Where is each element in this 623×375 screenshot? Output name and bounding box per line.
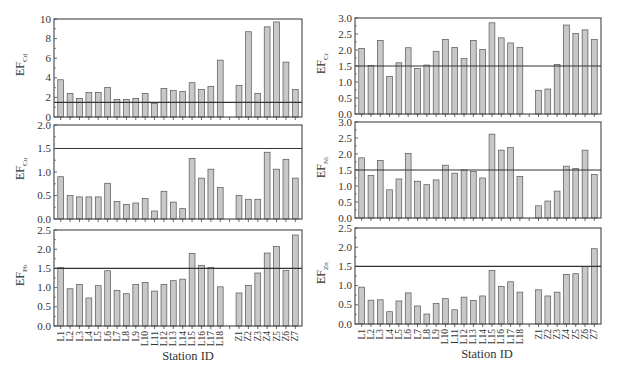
chart-panel-cu: 0.00.51.01.52.0EFCu (13, 119, 302, 225)
bar-Z6 (283, 62, 289, 117)
bar-L12 (461, 170, 467, 218)
bar-L14 (480, 296, 486, 324)
chart-panel-zn: 0.00.51.01.52.02.5L1L2L3L4L5L6L7L8L9L10L… (314, 222, 601, 345)
y-tick-label: 0.5 (338, 196, 352, 208)
bar-Z5 (274, 247, 280, 326)
bar-Z4 (564, 25, 570, 114)
bar-L11 (452, 173, 458, 218)
bar-L11 (152, 291, 158, 326)
y-axis-label: EFZn (314, 262, 330, 284)
x-tick-label: Z7 (290, 331, 300, 342)
y-axis-label: EFPb (13, 264, 29, 286)
bar-L15 (189, 158, 195, 219)
bar-L15 (489, 134, 495, 218)
bar-Z3 (554, 64, 560, 114)
x-axis-title-right: Station ID (447, 347, 527, 362)
bar-L1 (359, 48, 365, 114)
bar-L11 (152, 103, 158, 117)
y-tick-label: 1.0 (37, 166, 51, 178)
bar-L18 (517, 292, 523, 324)
bar-L3 (377, 40, 383, 114)
bar-L4 (387, 312, 393, 324)
bar-L16 (498, 38, 504, 114)
bar-L17 (508, 148, 514, 218)
bar-Z5 (274, 169, 280, 219)
bar-Z1 (536, 90, 542, 114)
x-tick-label: Z7 (589, 329, 599, 340)
y-tick-label: 1.5 (37, 142, 51, 154)
bar-L3 (377, 160, 383, 218)
bar-L5 (396, 179, 402, 218)
bar-L18 (217, 188, 223, 219)
y-tick-label: 0.5 (37, 189, 51, 201)
bar-L14 (180, 279, 186, 326)
bar-L14 (480, 49, 486, 114)
bar-L11 (452, 47, 458, 114)
bar-L13 (470, 172, 476, 218)
bar-L5 (95, 286, 101, 326)
y-tick-label: 1.5 (338, 164, 352, 176)
bar-L18 (217, 60, 223, 117)
bar-L4 (86, 197, 92, 219)
bar-L18 (517, 47, 523, 114)
y-tick-label: 2.5 (338, 132, 352, 144)
y-tick-label: 1.0 (37, 281, 51, 293)
bar-L3 (77, 197, 83, 219)
bar-L2 (67, 93, 73, 117)
bar-Z6 (283, 270, 289, 326)
bar-L4 (387, 190, 393, 218)
x-tick-label: L18 (515, 329, 525, 345)
bar-Z2 (545, 201, 551, 218)
bar-L7 (415, 181, 421, 218)
bar-L13 (170, 202, 176, 219)
chart-panel-ni: 0.00.51.01.52.02.53.0EFNi (314, 116, 601, 224)
bar-L13 (470, 40, 476, 114)
bar-L2 (67, 196, 73, 220)
y-tick-label: 2.5 (338, 28, 352, 40)
y-axis-label: EFCr (314, 52, 330, 74)
bar-Z1 (536, 206, 542, 218)
bar-L3 (377, 300, 383, 324)
y-tick-label: 0.0 (37, 320, 51, 332)
y-tick-label: 1.0 (338, 180, 352, 192)
bar-L9 (133, 285, 139, 326)
bar-Z4 (264, 152, 270, 219)
bar-L12 (161, 191, 167, 219)
bar-Z3 (554, 292, 560, 324)
bar-L13 (470, 301, 476, 324)
bar-Z2 (545, 89, 551, 114)
bar-L5 (396, 63, 402, 114)
bar-Z2 (245, 199, 251, 219)
bar-Z3 (255, 273, 261, 326)
bar-L18 (517, 176, 523, 218)
bar-L15 (489, 271, 495, 324)
bar-L4 (86, 93, 92, 118)
chart-panel-pb: 0.00.51.01.52.02.5L1L2L3L4L5L6L7L8L9L10L… (13, 224, 302, 347)
bar-L4 (86, 298, 92, 326)
bar-L6 (105, 271, 111, 326)
bar-L17 (208, 169, 214, 219)
bar-Z6 (582, 150, 588, 218)
y-axis-label: EFCd (13, 53, 29, 76)
y-tick-label: 1.5 (338, 260, 352, 272)
bar-L5 (95, 197, 101, 219)
bar-L6 (405, 293, 411, 324)
x-axis-title-left: Station ID (148, 349, 228, 364)
bar-Z6 (283, 159, 289, 219)
bar-Z7 (591, 174, 597, 218)
bar-L2 (368, 300, 374, 324)
bar-Z6 (582, 30, 588, 114)
y-tick-label: 3.0 (338, 12, 352, 24)
bar-L18 (217, 287, 223, 326)
bar-Z4 (264, 27, 270, 117)
y-tick-label: 0.5 (338, 92, 352, 104)
bar-Z6 (582, 266, 588, 324)
bar-L8 (424, 65, 430, 114)
x-tick-label: L18 (215, 331, 225, 347)
y-tick-label: 0.0 (338, 318, 352, 330)
bar-L17 (508, 43, 514, 114)
bar-L5 (95, 93, 101, 118)
bar-L10 (443, 39, 449, 114)
bar-L9 (433, 180, 439, 218)
bar-L16 (498, 286, 504, 324)
